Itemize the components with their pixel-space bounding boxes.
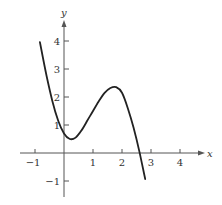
x-tick-label: −1 [26,157,41,168]
x-axis-label: x [207,148,213,159]
y-tick-label: 2 [54,92,60,103]
ticks: −11234−11234 [26,36,184,187]
x-tick-label: 2 [119,157,125,168]
chart-canvas: −11234−11234 x y [0,0,222,205]
y-axis-arrow-icon [62,20,67,27]
y-tick-label: −1 [45,176,60,187]
x-tick-label: 4 [177,157,183,168]
y-tick-label: 4 [54,36,60,47]
y-tick-label: 3 [54,64,60,75]
x-tick-label: 3 [148,157,154,168]
axes [20,20,205,197]
x-tick-label: 1 [90,157,96,168]
y-axis-label: y [60,7,67,18]
x-axis-arrow-icon [198,151,205,156]
